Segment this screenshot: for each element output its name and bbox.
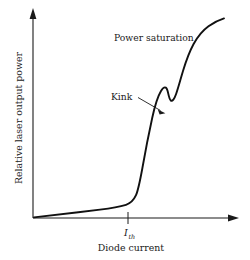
annotation-power-saturation: Power saturation bbox=[114, 32, 194, 43]
y-axis-title: Relative laser output power bbox=[13, 51, 24, 184]
figure-container: Power saturation Kink Ith Diode current … bbox=[0, 0, 250, 260]
li-curve bbox=[34, 18, 224, 217]
x-axis-title: Diode current bbox=[98, 242, 165, 253]
lI-characteristic-plot: Power saturation Kink Ith Diode current … bbox=[0, 0, 250, 260]
threshold-symbol: I bbox=[123, 227, 128, 238]
threshold-tick-label: Ith bbox=[123, 227, 135, 241]
threshold-subscript: th bbox=[128, 233, 135, 241]
annotation-kink: Kink bbox=[111, 91, 133, 102]
kink-arrowhead-icon bbox=[158, 110, 166, 115]
y-axis-arrowhead-icon bbox=[30, 8, 37, 19]
x-axis-arrowhead-icon bbox=[228, 215, 239, 222]
